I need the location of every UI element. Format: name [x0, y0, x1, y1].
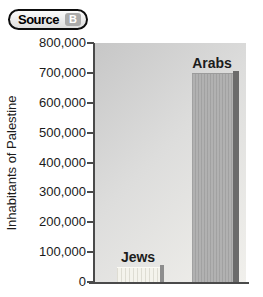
y-tick-label: 700,000: [18, 66, 86, 80]
population-bar-chart: Inhabitants of Palestine 800,000 700,000…: [0, 0, 263, 297]
plot-area: Jews Arabs: [95, 43, 246, 282]
bar-jews-label: Jews: [121, 249, 155, 265]
y-tick-label: 300,000: [18, 185, 86, 199]
y-tick-label: 500,000: [18, 126, 86, 140]
bar-arabs-fill: [192, 73, 233, 282]
bar-jews-fill: [117, 267, 160, 282]
y-tick-label: 0: [18, 275, 86, 289]
y-tick-label: 200,000: [18, 215, 86, 229]
x-axis-line: [89, 282, 249, 284]
y-tick-label: 800,000: [18, 36, 86, 50]
y-tick-label: 100,000: [18, 245, 86, 259]
y-tick-label: 600,000: [18, 96, 86, 110]
y-axis-tick-labels: 800,000 700,000 600,000 500,000 400,000 …: [18, 36, 86, 289]
y-axis-line: [93, 43, 95, 283]
textbook-chart-page: Source B Inhabitants of Palestine 800,00…: [0, 0, 263, 297]
y-tick-label: 400,000: [18, 156, 86, 170]
bar-arabs-label: Arabs: [192, 55, 232, 71]
bar-jews-shadow: [160, 265, 164, 282]
bar-arabs-shadow: [233, 71, 239, 282]
